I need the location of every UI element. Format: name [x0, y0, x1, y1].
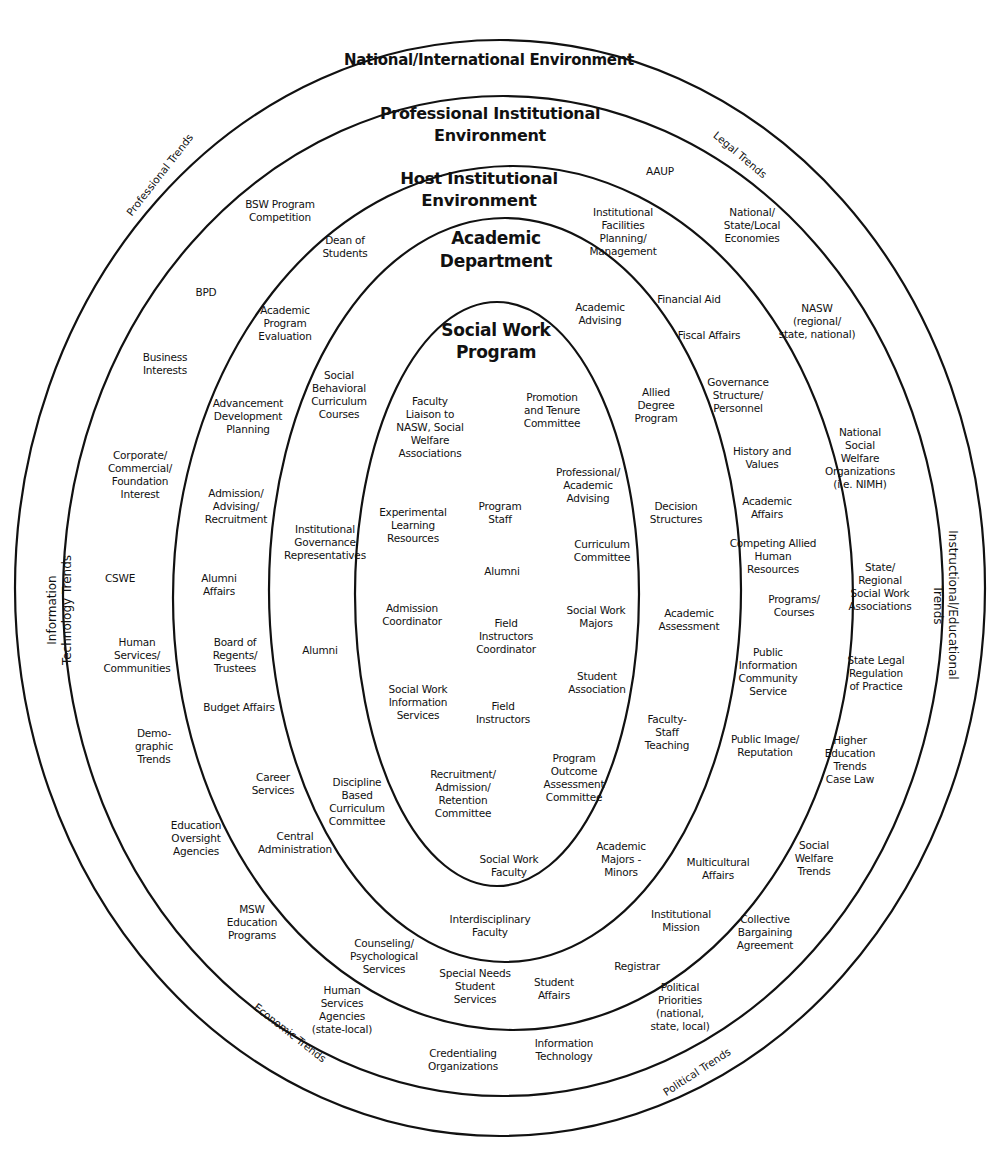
item-aaup: AAUP	[646, 165, 674, 178]
item-bpd: BPD	[195, 286, 216, 299]
ring-title-national: National/International Environment	[344, 51, 634, 70]
item-faculty-staff-teaching: Faculty- Staff Teaching	[645, 713, 690, 752]
item-public-information-community-service: Public Information Community Service	[739, 646, 798, 698]
item-political-priorities: Political Priorities (national, state, l…	[650, 981, 709, 1033]
trend-instructional-educational: Instructional/Educational Trends	[930, 495, 960, 715]
item-curriculum-committee: Curriculum Committee	[574, 538, 630, 564]
item-social-work-majors: Social Work Majors	[567, 604, 626, 630]
item-academic-program-evaluation: Academic Program Evaluation	[258, 304, 311, 343]
item-bsw-program-competition: BSW Program Competition	[245, 198, 315, 224]
ring-host-outline	[173, 166, 853, 1030]
item-social-welfare-trends: Social Welfare Trends	[795, 839, 833, 878]
ring-title-academic: Academic Department	[440, 227, 552, 273]
item-social-work-faculty: Social Work Faculty	[480, 853, 539, 879]
item-admission-coordinator: Admission Coordinator	[382, 602, 442, 628]
item-nasw: NASW (regional/ state, national)	[779, 302, 856, 341]
item-program-staff: Program Staff	[479, 500, 522, 526]
item-decision-structures: Decision Structures	[650, 500, 702, 526]
item-faculty-liaison: Faculty Liaison to NASW, Social Welfare …	[396, 395, 464, 460]
item-academic-affairs: Academic Affairs	[742, 495, 792, 521]
item-institutional-facilities: Institutional Facilities Planning/ Manag…	[589, 206, 656, 258]
item-corporate-foundation-interest: Corporate/ Commercial/ Foundation Intere…	[108, 449, 172, 501]
item-counseling-psychological-services: Counseling/ Psychological Services	[350, 937, 418, 976]
item-advancement-development-planning: Advancement Development Planning	[213, 397, 283, 436]
item-professional-academic-advising: Professional/ Academic Advising	[556, 466, 620, 505]
item-programs-courses: Programs/ Courses	[768, 593, 820, 619]
item-board-of-regents: Board of Regents/ Trustees	[213, 636, 258, 675]
item-academic-advising: Academic Advising	[575, 301, 625, 327]
item-multicultural-affairs: Multicultural Affairs	[687, 856, 750, 882]
item-collective-bargaining-agreement: Collective Bargaining Agreement	[737, 913, 794, 952]
item-student-association: Student Association	[568, 670, 626, 696]
item-economies: National/ State/Local Economies	[724, 206, 780, 245]
ring-title-professional: Professional Institutional Environment	[380, 103, 600, 147]
item-competing-allied-human-resources: Competing Allied Human Resources	[730, 537, 817, 576]
item-alumni-program: Alumni	[484, 565, 519, 578]
item-cswe: CSWE	[105, 572, 135, 585]
item-information-technology: Information Technology	[535, 1037, 594, 1063]
item-central-administration: Central Administration	[258, 830, 332, 856]
ring-title-program: Social Work Program	[441, 319, 550, 363]
item-institutional-mission: Institutional Mission	[651, 908, 711, 934]
item-history-and-values: History and Values	[733, 445, 791, 471]
item-academic-majors-minors: Academic Majors - Minors	[596, 840, 646, 879]
item-state-legal-regulation: State Legal Regulation of Practice	[847, 654, 904, 693]
item-state-regional-sw-associations: State/ Regional Social Work Associations	[849, 561, 912, 613]
item-higher-education-trends-case-law: Higher Education Trends Case Law	[825, 734, 875, 786]
item-social-behavioral-curriculum: Social Behavioral Curriculum Courses	[311, 369, 367, 421]
item-student-affairs: Student Affairs	[534, 976, 574, 1002]
item-human-services-agencies: Human Services Agencies (state-local)	[312, 984, 372, 1036]
item-recruitment-admission-retention-committee: Recruitment/ Admission/ Retention Commit…	[430, 768, 496, 820]
item-social-work-information-services: Social Work Information Services	[389, 683, 448, 722]
item-discipline-based-curriculum-committee: Discipline Based Curriculum Committee	[329, 776, 385, 828]
item-interdisciplinary-faculty: Interdisciplinary Faculty	[450, 913, 531, 939]
item-demographic-trends: Demo- graphic Trends	[135, 727, 173, 766]
item-dean-of-students: Dean of Students	[322, 234, 367, 260]
item-national-social-welfare-orgs: National Social Welfare Organizations (i…	[825, 426, 895, 491]
item-education-oversight-agencies: Education Oversight Agencies	[171, 819, 221, 858]
item-business-interests: Business Interests	[143, 351, 188, 377]
item-program-outcome-assessment-committee: Program Outcome Assessment Committee	[544, 752, 605, 804]
item-budget-affairs: Budget Affairs	[203, 701, 275, 714]
item-alumni-affairs: Alumni Affairs	[201, 572, 236, 598]
item-human-services-communities: Human Services/ Communities	[103, 636, 170, 675]
item-allied-degree-program: Allied Degree Program	[635, 386, 678, 425]
item-governance-structure-personnel: Governance Structure/ Personnel	[707, 376, 768, 415]
item-credentialing-organizations: Credentialing Organizations	[428, 1047, 498, 1073]
item-career-services: Career Services	[252, 771, 295, 797]
ring-title-host: Host Institutional Environment	[400, 168, 558, 212]
item-experimental-learning-resources: Experimental Learning Resources	[379, 506, 447, 545]
item-special-needs-student-services: Special Needs Student Services	[439, 967, 510, 1006]
item-financial-aid: Financial Aid	[657, 293, 720, 306]
item-promotion-tenure-committee: Promotion and Tenure Committee	[524, 391, 580, 430]
item-academic-assessment: Academic Assessment	[659, 607, 720, 633]
item-institutional-governance-representatives: Institutional Governance Representatives	[284, 523, 366, 562]
item-registrar: Registrar	[614, 960, 660, 973]
item-admission-advising-recruitment: Admission/ Advising/ Recruitment	[205, 487, 267, 526]
item-msw-education-programs: MSW Education Programs	[227, 903, 277, 942]
item-alumni-academic: Alumni	[302, 644, 337, 657]
item-public-image-reputation: Public Image/ Reputation	[731, 733, 799, 759]
item-field-instructors-coordinator: Field Instructors Coordinator	[476, 617, 536, 656]
item-field-instructors: Field Instructors	[476, 700, 530, 726]
trend-information-technology: Information Technology Trends	[45, 500, 75, 720]
item-fiscal-affairs: Fiscal Affairs	[678, 329, 741, 342]
